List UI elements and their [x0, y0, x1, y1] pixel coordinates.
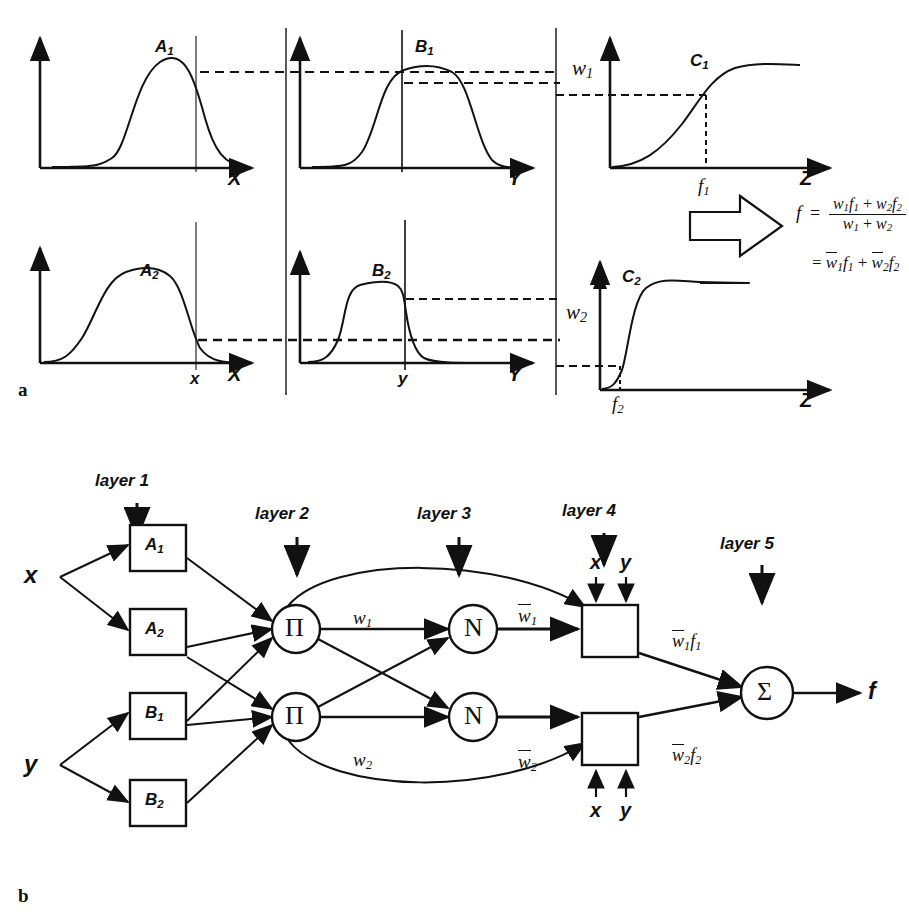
edge-label-w2: w2	[353, 750, 372, 772]
axis-label-z-bottom: Z	[800, 390, 812, 410]
input-label-x: x	[24, 563, 37, 587]
product-node-1-label: Π	[285, 615, 304, 641]
x-tick-f1: f1	[698, 176, 710, 198]
curve-label-c1: C1	[690, 52, 709, 71]
y-tick-w2: w2	[566, 302, 587, 324]
membership-box-a1-label: A1	[145, 536, 164, 555]
axis-label-y-bottom: Y	[508, 364, 521, 384]
layer-label-3: layer 3	[417, 505, 471, 522]
membership-box-b1-label: B1	[145, 704, 164, 723]
panel-b-graphics	[0, 425, 909, 923]
consequent-input-top-y: y	[620, 552, 631, 572]
consequent-input-bottom-y: y	[620, 800, 631, 820]
edge-label-wbar2f2: w2f2	[672, 744, 701, 766]
edge-label-wbar1: w1	[518, 604, 537, 628]
implication-arrow	[690, 196, 782, 256]
product-node-2-label: Π	[285, 703, 304, 729]
normalize-node-1-label: N	[464, 615, 483, 641]
layer-label-4: layer 4	[562, 502, 616, 519]
axis-label-x-bottom: X	[228, 364, 241, 384]
edge-label-wbar2: w2	[518, 750, 537, 774]
consequent-input-top-x: x	[590, 552, 601, 572]
consequent-input-bottom-x: x	[590, 800, 601, 820]
axis-label-y-top: Y	[508, 168, 521, 188]
panel-tag-a: a	[18, 380, 28, 399]
membership-box-b2-label: B2	[145, 791, 164, 810]
defuzzification-formula: f = w1f1 + w2f2 w1 + w2	[796, 196, 906, 234]
sum-node-label: Σ	[757, 679, 772, 705]
axis-label-x-top: X	[228, 168, 241, 188]
curve-label-b2: B2	[372, 262, 391, 281]
axis-label-z-top: Z	[800, 168, 812, 188]
layer-label-1: layer 1	[95, 472, 149, 489]
curve-label-a1: A1	[155, 38, 174, 57]
panel-a-graphics	[0, 0, 909, 420]
formula-numerator: w1f1 + w2f2	[829, 196, 906, 215]
plot-b2	[300, 220, 560, 370]
output-label-f: f	[868, 680, 876, 703]
plot-c2	[556, 262, 830, 390]
x-tick-f2: f2	[612, 394, 624, 416]
curve-label-a2: A2	[140, 262, 159, 281]
x-tick-x: x	[190, 370, 199, 387]
input-label-y: y	[24, 752, 37, 776]
layer-label-5: layer 5	[720, 535, 774, 552]
layer-label-2: layer 2	[255, 505, 309, 522]
defuzzification-formula-line2: = w1f1 + w2f2	[812, 252, 899, 273]
membership-box-a2-label: A2	[145, 620, 164, 639]
edge-label-wbar1f1: w1f1	[672, 630, 701, 652]
curve-label-c2: C2	[622, 268, 641, 287]
edge-label-w1: w1	[353, 608, 372, 630]
figure-root: A1 X B1 Y C1 w1 f1 Z A2 x X B2 y Y C2 w2…	[0, 0, 909, 923]
normalize-node-2-label: N	[464, 703, 483, 729]
y-tick-w1: w1	[572, 58, 593, 80]
formula-denominator: w1 + w2	[829, 215, 906, 233]
curve-label-b1: B1	[415, 38, 434, 57]
x-tick-y: y	[398, 370, 407, 387]
